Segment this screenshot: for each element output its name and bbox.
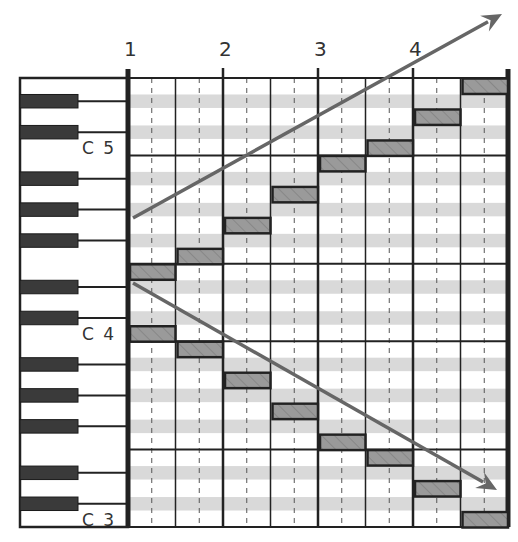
note-A4: [273, 187, 319, 202]
black-key: [20, 420, 78, 433]
measure-label: 2: [219, 37, 232, 61]
black-key: [20, 280, 78, 293]
note-D5: [415, 109, 461, 124]
black-key: [20, 466, 78, 479]
note-G4: [225, 218, 271, 233]
black-key: [20, 358, 78, 371]
piano-roll-diagram: 1234C 5C 4C 3: [0, 0, 518, 542]
measure-label: 1: [124, 37, 137, 61]
note-E5: [463, 79, 509, 94]
note-C5: [368, 140, 414, 155]
note-B3: [178, 342, 224, 357]
octave-label: C 4: [82, 324, 116, 344]
piano-roll-canvas: 1234C 5C 4C 3: [0, 0, 518, 542]
note-E3: [368, 450, 414, 465]
octave-label: C 3: [82, 510, 116, 530]
note-C3: [463, 512, 509, 527]
measure-label: 3: [314, 37, 327, 61]
black-key: [20, 389, 78, 402]
octave-label: C 5: [82, 138, 116, 158]
black-key: [20, 94, 78, 107]
note-F4: [178, 249, 224, 264]
note-G3: [273, 404, 319, 419]
black-key: [20, 125, 78, 138]
black-key: [20, 172, 78, 185]
black-key: [20, 203, 78, 216]
note-E4: [130, 264, 176, 279]
measure-label: 4: [409, 37, 422, 61]
note-C4: [130, 326, 176, 341]
note-D3: [415, 481, 461, 496]
note-B4: [320, 156, 366, 171]
note-A3: [225, 373, 271, 388]
black-key: [20, 497, 78, 510]
note-F3: [320, 435, 366, 450]
black-key: [20, 311, 78, 324]
black-key: [20, 234, 78, 247]
